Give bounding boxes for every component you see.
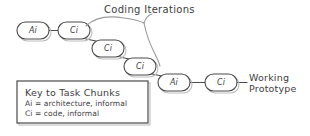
diagram-canvas: Ai Ci Ci Ci Ai Ci Coding Iterations Key … bbox=[0, 0, 310, 136]
task-chunk-node-6[interactable] bbox=[205, 74, 237, 91]
legend-entry-ci: Ci = code, informal bbox=[25, 109, 99, 118]
task-chunk-node-5[interactable] bbox=[158, 74, 190, 91]
task-chunk-node-1[interactable] bbox=[17, 22, 49, 39]
task-chunk-node-2[interactable] bbox=[58, 22, 90, 39]
task-chunk-node-3[interactable] bbox=[92, 40, 124, 57]
brace-upper-icon bbox=[86, 14, 152, 26]
outcome-label-line2: Prototype bbox=[249, 84, 297, 95]
legend-entry-ai: Ai = architecture, informal bbox=[25, 99, 127, 108]
task-chunk-node-4[interactable] bbox=[124, 58, 156, 75]
outcome-label-line1: Working bbox=[249, 73, 289, 84]
legend-title: Key to Task Chunks bbox=[25, 87, 120, 98]
coding-iterations-label: Coding Iterations bbox=[104, 4, 195, 15]
